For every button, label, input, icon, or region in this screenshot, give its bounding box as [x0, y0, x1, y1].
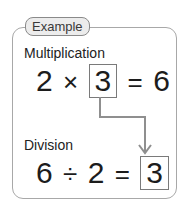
division-equation: 6 ÷ 2 = 3	[36, 156, 169, 191]
division-operand1: 6	[36, 156, 53, 190]
division-answer-box: 3	[140, 156, 169, 190]
divide-sign: ÷	[63, 157, 77, 191]
connector-line	[100, 97, 145, 152]
division-operand2: 2	[88, 156, 105, 190]
division-label: Division	[24, 137, 73, 153]
equals-sign: =	[115, 157, 130, 191]
